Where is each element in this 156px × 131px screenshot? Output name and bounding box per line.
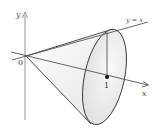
cone-diagram: y x 0 y = x 1 [0,0,156,131]
origin-label: 0 [18,58,23,67]
x-axis-label: x [142,89,147,98]
point-x-1 [105,75,109,79]
tick-label-1: 1 [104,81,109,90]
diagram-svg: y x 0 y = x 1 [0,0,156,131]
y-axis [23,12,28,120]
line-label: y = x [125,16,143,24]
y-axis-label: y [15,10,21,19]
